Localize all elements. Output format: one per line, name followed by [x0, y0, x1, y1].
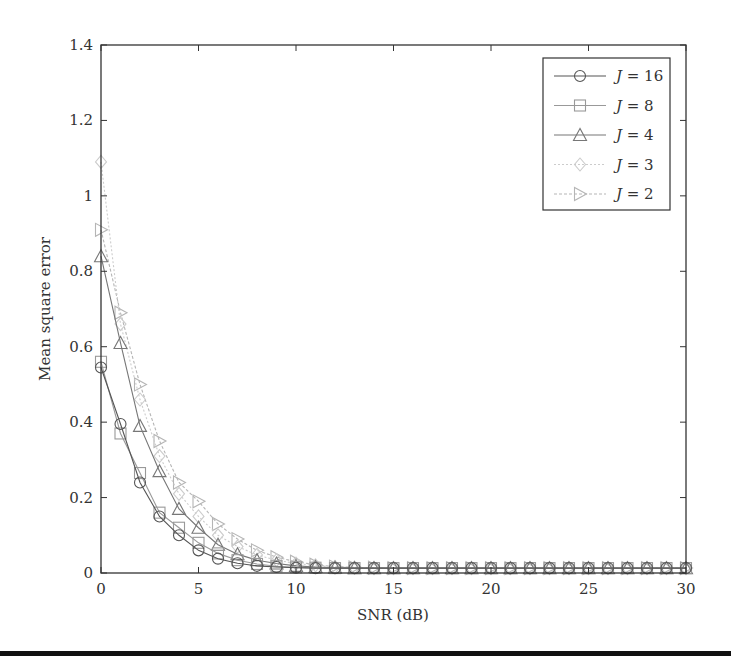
- bottom-divider-rule: [0, 651, 731, 656]
- x-tick-label: 10: [286, 580, 305, 598]
- legend: J = 16J = 8J = 4J = 3J = 2: [543, 58, 670, 210]
- y-tick-label: 1.2: [69, 111, 93, 129]
- x-tick-label: 30: [676, 580, 695, 598]
- series-line: [101, 256, 686, 568]
- series-j2: [96, 223, 693, 574]
- y-tick-label: 0.6: [69, 338, 93, 356]
- series-layer: [95, 155, 693, 574]
- y-tick-label: 1: [83, 187, 93, 205]
- series-j3: [96, 155, 692, 574]
- mse-vs-snr-chart: 05101520253000.20.40.60.811.21.4 SNR (dB…: [0, 0, 731, 667]
- legend-label: J = 4: [613, 126, 654, 144]
- y-tick-label: 0.4: [69, 413, 93, 431]
- y-tick-label: 0.8: [69, 262, 93, 280]
- x-tick-label: 25: [579, 580, 598, 598]
- series-line: [101, 367, 686, 568]
- x-tick-label: 15: [384, 580, 403, 598]
- y-tick-label: 0.2: [69, 489, 93, 507]
- legend-label: J = 3: [613, 156, 654, 174]
- y-tick-label: 1.4: [69, 36, 93, 54]
- x-axis-label: SNR (dB): [357, 606, 429, 624]
- legend-label: J = 8: [613, 97, 654, 115]
- series-line: [101, 362, 686, 568]
- x-tick-label: 0: [96, 580, 106, 598]
- series-line: [101, 162, 686, 568]
- legend-label: J = 16: [613, 67, 663, 85]
- series-j16: [96, 362, 692, 574]
- legend-label: J = 2: [613, 185, 654, 203]
- x-tick-label: 5: [194, 580, 204, 598]
- y-tick-label: 0: [83, 564, 93, 582]
- series-line: [101, 230, 686, 568]
- y-axis-label: Mean square error: [36, 236, 54, 381]
- series-j8: [96, 356, 692, 573]
- x-tick-label: 20: [481, 580, 500, 598]
